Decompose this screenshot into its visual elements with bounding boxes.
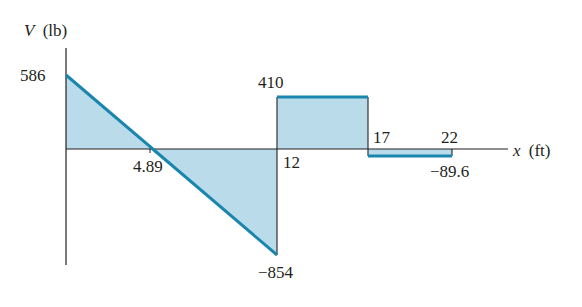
label-17: 17 <box>373 128 391 147</box>
label-12: 12 <box>283 153 300 172</box>
shear-diagram: V (lb) x (ft) 586 4.89 12 −854 410 17 22… <box>0 0 582 307</box>
x-axis-label: x (ft) <box>512 141 551 160</box>
label-neg89.6: −89.6 <box>430 162 469 181</box>
label-22: 22 <box>441 128 458 147</box>
y-axis-label: V (lb) <box>24 21 67 40</box>
label-neg854: −854 <box>258 263 294 282</box>
label-410: 410 <box>258 73 284 92</box>
label-586: 586 <box>20 66 46 85</box>
area-positive-rect <box>277 97 368 149</box>
label-4.89: 4.89 <box>133 157 163 176</box>
